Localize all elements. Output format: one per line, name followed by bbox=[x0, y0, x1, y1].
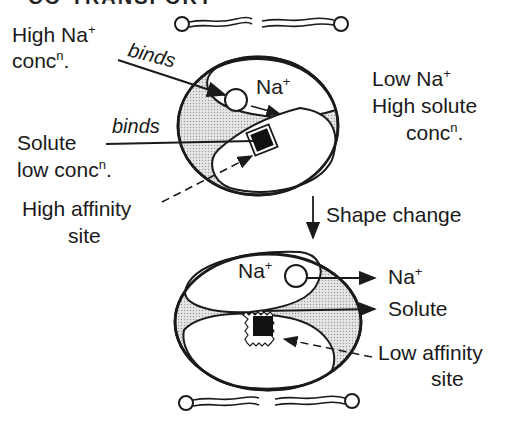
label-inner-na-bottom: Na+ bbox=[238, 258, 272, 284]
label-shape-change: Shape change bbox=[326, 202, 461, 228]
label-solute: Solute bbox=[17, 130, 77, 156]
label-low-na: Low Na+ bbox=[372, 66, 451, 92]
label-solute-low-conc: low concn. bbox=[17, 157, 112, 183]
membrane-lipid-top bbox=[175, 17, 348, 31]
label-high-na: High Na+ bbox=[12, 22, 95, 48]
label-low-affinity-site: site bbox=[431, 366, 464, 392]
label-binds-solute: binds bbox=[112, 113, 160, 139]
label-high-na-conc: concn. bbox=[12, 48, 69, 74]
membrane-lipid-bottom bbox=[179, 394, 359, 410]
sodium-ion-bottom bbox=[285, 265, 307, 287]
label-high-solute: High solute bbox=[372, 93, 477, 119]
label-low-affinity: Low affinity bbox=[378, 340, 483, 366]
sodium-ion-top bbox=[225, 89, 247, 111]
label-high-affinity-site: site bbox=[68, 223, 101, 249]
label-inner-na-top: Na+ bbox=[256, 74, 290, 100]
solute-molecule-bottom bbox=[243, 312, 274, 346]
label-high-affinity: High affinity bbox=[22, 196, 131, 222]
label-na-out: Na+ bbox=[388, 264, 422, 290]
label-solute-out: Solute bbox=[388, 296, 448, 322]
label-high-solute-conc: concn. bbox=[406, 120, 463, 146]
